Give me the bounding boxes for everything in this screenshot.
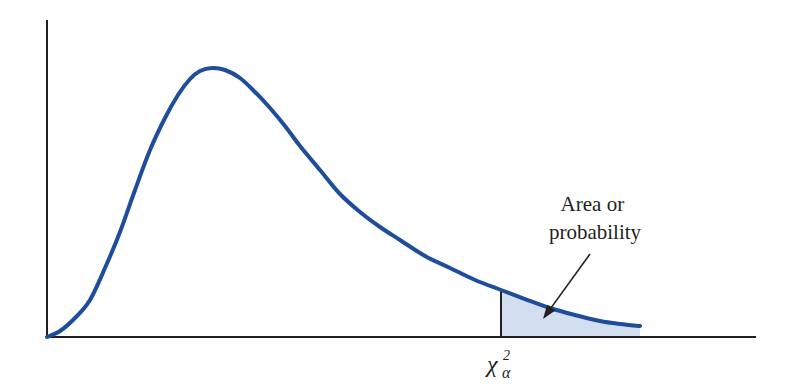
annotation-line-1: Area or bbox=[561, 192, 625, 216]
chi-symbol: χ bbox=[485, 351, 499, 377]
chi-subscript: α bbox=[502, 364, 511, 381]
annotation-label: Area or probability bbox=[549, 192, 642, 244]
density-curve bbox=[47, 68, 640, 337]
critical-value-label: χ 2 α bbox=[485, 348, 511, 381]
annotation-arrow bbox=[551, 254, 590, 308]
chi-superscript: 2 bbox=[503, 348, 510, 363]
annotation-line-2: probability bbox=[549, 220, 642, 244]
chi-square-chart: Area or probability χ 2 α bbox=[0, 0, 789, 392]
